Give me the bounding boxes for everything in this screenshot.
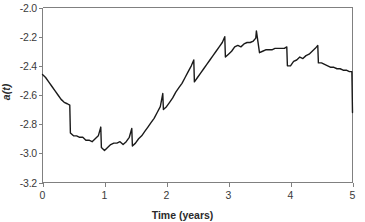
y-tick-label-wrap: -2.8 — [0, 118, 37, 130]
chart-plot-svg — [0, 0, 365, 222]
x-tick-label: 5 — [341, 189, 365, 201]
y-tick-marks — [39, 9, 43, 184]
y-tick-label: -2.4 — [20, 60, 37, 72]
x-tick-label: 3 — [217, 189, 241, 201]
y-tick-label-wrap: -3.2 — [0, 177, 37, 189]
y-tick-label-wrap: -2.2 — [0, 31, 37, 43]
y-tick-label: -3.2 — [20, 177, 37, 189]
chart-figure: -2.0-2.2-2.4-2.6-2.8-3.0-3.2 012345 a(t)… — [0, 0, 365, 222]
x-tick-label: 2 — [155, 189, 179, 201]
data-series-group — [43, 31, 353, 151]
x-tick-marks — [44, 183, 354, 187]
y-tick-label: -3.0 — [20, 147, 37, 159]
y-tick-label: -2.8 — [20, 118, 37, 130]
x-tick-label: 4 — [279, 189, 303, 201]
x-axis-title: Time (years) — [0, 209, 365, 221]
x-tick-label: 1 — [93, 189, 117, 201]
x-tick-label: 0 — [31, 189, 55, 201]
y-tick-label-wrap: -2.4 — [0, 60, 37, 72]
y-tick-label-wrap: -2.0 — [0, 2, 37, 14]
y-tick-label-wrap: -3.0 — [0, 147, 37, 159]
y-axis-title: a(t) — [0, 72, 12, 112]
axes-group — [43, 8, 353, 183]
y-tick-label: -2.6 — [20, 89, 37, 101]
data-series-line — [43, 31, 353, 151]
y-tick-label: -2.2 — [20, 31, 37, 43]
y-tick-label: -2.0 — [20, 2, 37, 14]
